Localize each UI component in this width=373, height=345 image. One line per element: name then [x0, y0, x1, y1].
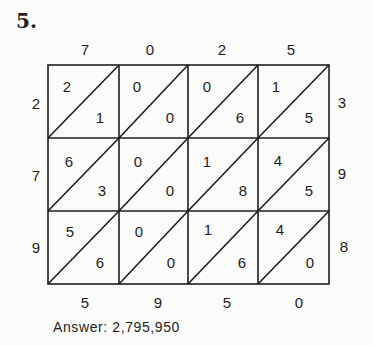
lattice-grid — [0, 0, 373, 345]
cell-tens-digit: 1 — [272, 79, 280, 94]
cell-ones-digit: 0 — [306, 255, 314, 270]
cell-ones-digit: 8 — [239, 183, 247, 198]
left-digit: 2 — [32, 96, 40, 111]
cell-tens-digit: 4 — [274, 153, 282, 168]
cell-tens-digit: 0 — [203, 79, 211, 94]
cell-ones-digit: 1 — [96, 110, 104, 125]
cell-tens-digit: 6 — [65, 154, 73, 169]
cell-tens-digit: 2 — [63, 79, 71, 94]
cell-tens-digit: 0 — [133, 79, 141, 94]
cell-ones-digit: 5 — [305, 183, 313, 198]
cell-ones-digit: 6 — [96, 255, 104, 270]
cell-ones-digit: 5 — [305, 110, 313, 125]
right-digit: 9 — [338, 166, 346, 181]
top-digit: 2 — [218, 42, 226, 57]
cell-tens-digit: 1 — [204, 222, 212, 237]
cell-ones-digit: 0 — [166, 183, 174, 198]
bottom-digit: 0 — [295, 295, 303, 310]
cell-ones-digit: 6 — [236, 110, 244, 125]
right-digit: 8 — [340, 239, 348, 254]
bottom-digit: 5 — [81, 295, 89, 310]
cell-tens-digit: 0 — [134, 154, 142, 169]
cell-tens-digit: 0 — [135, 224, 143, 239]
cell-tens-digit: 1 — [203, 154, 211, 169]
cell-ones-digit: 3 — [98, 183, 106, 198]
left-digit: 9 — [32, 240, 40, 255]
right-digit: 3 — [338, 95, 346, 110]
cell-ones-digit: 0 — [167, 255, 175, 270]
cell-tens-digit: 5 — [66, 224, 74, 239]
top-digit: 7 — [81, 42, 89, 57]
top-digit: 0 — [146, 42, 154, 57]
cell-tens-digit: 4 — [276, 222, 284, 237]
bottom-digit: 9 — [154, 295, 162, 310]
bottom-digit: 5 — [223, 295, 231, 310]
left-digit: 7 — [32, 168, 40, 183]
answer-text: Answer: 2,795,950 — [53, 319, 180, 335]
cell-ones-digit: 6 — [238, 255, 246, 270]
cell-ones-digit: 0 — [166, 110, 174, 125]
top-digit: 5 — [287, 42, 295, 57]
